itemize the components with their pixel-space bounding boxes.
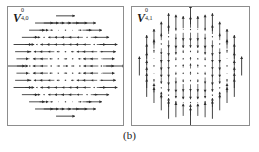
quiver-arrow — [204, 28, 206, 31]
quiver-arrow — [211, 25, 214, 34]
quiver-arrow — [226, 79, 228, 82]
quiver-arrow — [56, 115, 75, 118]
quiver-arrow — [174, 84, 177, 93]
quiver-arrow — [90, 65, 98, 68]
quiver-dot — [72, 101, 73, 102]
quiver-arrow — [219, 87, 220, 88]
quiver-arrow — [72, 72, 74, 73]
quiver-dot — [72, 30, 73, 31]
quiver-arrow — [29, 65, 30, 66]
quiver-arrow — [197, 58, 198, 60]
quiver-arrow — [33, 93, 40, 95]
quiver-arrow — [189, 91, 192, 99]
quiver-arrow — [58, 72, 60, 73]
quiver-arrow — [93, 87, 94, 88]
quiver-arrow — [50, 65, 52, 66]
quiver-arrow — [65, 80, 67, 81]
quiver-arrow — [48, 36, 54, 38]
quiver-arrow — [190, 72, 192, 75]
quiver-arrow — [167, 62, 170, 69]
quiver-arrow — [43, 94, 44, 95]
quiver-arrow — [69, 43, 77, 46]
quiver-arrow — [153, 79, 155, 82]
quiver-dot — [227, 73, 228, 74]
quiver-arrow — [204, 92, 206, 98]
quiver-arrow — [78, 58, 81, 60]
quiver-arrow — [196, 91, 199, 99]
quiver-arrow — [226, 87, 229, 103]
quiver-arrow — [160, 48, 162, 54]
quiver-arrow — [54, 93, 62, 96]
quiver-arrow — [83, 86, 90, 89]
quiver-arrow — [145, 79, 148, 97]
quiver-arrow — [196, 104, 199, 116]
quiver-arrow — [94, 93, 110, 96]
quiver-arrow — [190, 102, 191, 103]
quiver-arrow — [153, 87, 156, 103]
quiver-arrow — [86, 29, 102, 32]
quiver-arrow — [189, 84, 191, 91]
quiver-panel-v40: V04,0 — [7, 6, 124, 126]
quiver-arrow — [101, 79, 116, 82]
quiver-arrow — [101, 65, 102, 66]
quiver-dot — [29, 73, 30, 74]
quiver-arrow — [196, 16, 199, 28]
quiver-arrow — [182, 64, 184, 67]
quiver-arrow — [65, 29, 66, 30]
quiver-arrow — [15, 79, 30, 82]
quiver-arrow — [102, 72, 114, 75]
quiver-arrow — [78, 101, 81, 103]
quiver-arrow — [83, 50, 92, 53]
panel-label-scripts: 04,0 — [21, 10, 32, 22]
quiver-arrow — [204, 65, 205, 67]
quiver-arrow — [83, 58, 91, 61]
quiver-arrow — [90, 58, 98, 61]
quiver-arrow — [79, 65, 81, 66]
quiver-arrow — [15, 50, 30, 53]
quiver-panel-v41: V04,1 — [131, 6, 250, 126]
quiver-arrow — [54, 36, 62, 39]
quiver-dot — [154, 73, 155, 74]
quiver-arrow — [197, 73, 198, 75]
quiver-arrow — [189, 33, 192, 41]
quiver-dot — [197, 29, 198, 30]
quiver-arrow — [36, 44, 37, 45]
quiver-dot — [183, 29, 184, 30]
quiver-arrow — [34, 51, 40, 53]
panel-label-scripts: 04,1 — [145, 10, 156, 22]
quiver-arrow — [204, 72, 206, 75]
quiver-dot — [58, 30, 59, 31]
quiver-arrow — [240, 57, 243, 76]
quiver-arrow — [182, 50, 184, 53]
quiver-arrow — [175, 28, 177, 31]
quiver-arrow — [40, 79, 49, 82]
quiver-arrow — [94, 36, 110, 39]
quiver-arrow — [197, 64, 199, 67]
quiver-arrow — [175, 92, 177, 98]
quiver-arrow — [78, 108, 96, 111]
quiver-dot — [154, 58, 155, 59]
quiver-arrow — [174, 15, 177, 30]
quiver-arrow — [204, 77, 206, 83]
quiver-arrow — [33, 36, 40, 38]
quiver-arrow — [153, 65, 154, 66]
quiver-arrow — [48, 51, 54, 53]
quiver-arrow — [40, 58, 48, 61]
quiver-arrow — [64, 72, 67, 74]
quiver-arrow — [204, 48, 206, 54]
quiver-plot-v40 — [8, 7, 123, 125]
quiver-arrow — [160, 78, 162, 84]
panel-label-v40: V04,0 — [13, 10, 32, 24]
quiver-arrow — [218, 62, 221, 70]
quiver-arrow — [175, 48, 177, 54]
quiver-arrow — [174, 40, 177, 49]
quiver-arrow — [212, 95, 213, 96]
quiver-arrow — [69, 86, 77, 89]
quiver-arrow — [196, 33, 199, 41]
quiver-arrow — [65, 51, 67, 52]
quiver-arrow — [175, 72, 177, 75]
quiver-arrow — [33, 65, 41, 68]
quiver-arrow — [183, 73, 184, 75]
quiver-arrow — [83, 43, 90, 46]
quiver-arrow — [153, 40, 156, 49]
